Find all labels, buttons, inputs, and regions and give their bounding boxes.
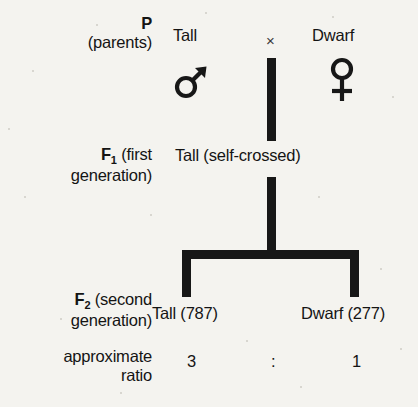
connector-trunk-upper	[267, 58, 276, 141]
ratio-separator: :	[271, 352, 275, 371]
row-label-ratio-line2: ratio	[121, 366, 152, 384]
parent-male-trait: Tall	[173, 26, 197, 45]
row-label-f2: F2 (second generation)	[0, 290, 152, 330]
row-label-f2-line2: generation)	[71, 311, 152, 329]
scan-speckle	[392, 96, 394, 98]
cross-operator: ×	[266, 33, 275, 48]
connector-bracket-left-drop	[182, 250, 191, 297]
row-label-parents: P (parents)	[0, 14, 152, 52]
row-label-f1-rest: (first	[121, 145, 152, 163]
row-label-parents-lead: P	[141, 14, 152, 32]
row-label-f1-line2: generation)	[71, 166, 152, 184]
row-label-f2-sub: 2	[84, 299, 90, 311]
row-label-f1-sub: 1	[111, 154, 117, 166]
scan-speckle	[300, 386, 302, 388]
row-label-f1-lead: F	[101, 145, 111, 163]
connector-trunk-lower	[267, 177, 276, 255]
scan-speckle	[332, 16, 334, 18]
male-symbol-icon	[173, 62, 211, 100]
row-label-f2-lead: F	[74, 290, 84, 308]
scan-speckle	[150, 214, 152, 216]
connector-bracket-right-drop	[350, 250, 359, 297]
scan-speckle	[8, 128, 10, 130]
row-label-parents-rest: (parents)	[88, 33, 152, 51]
scan-speckle	[32, 70, 34, 72]
ratio-right-value: 1	[352, 352, 361, 371]
scan-speckle	[318, 196, 320, 198]
row-label-ratio-line1: approximate	[63, 347, 152, 365]
ratio-left-value: 3	[187, 352, 196, 371]
row-label-ratio: approximate ratio	[0, 347, 152, 385]
f2-offspring-left: Tall (787)	[152, 304, 218, 323]
row-label-f1: F1 (first generation)	[0, 145, 152, 185]
parent-female-trait: Dwarf	[312, 26, 354, 45]
scan-speckle	[246, 340, 248, 342]
genetics-cross-diagram: P (parents) Tall × Dwarf F1 (first gener…	[0, 0, 418, 407]
f2-offspring-right: Dwarf (277)	[301, 304, 385, 323]
scan-speckle	[400, 348, 402, 350]
scan-speckle	[205, 12, 207, 14]
scan-speckle	[120, 392, 122, 394]
connector-bracket-horizontal	[182, 250, 359, 259]
scan-speckle	[380, 268, 382, 270]
female-symbol-icon	[325, 56, 359, 104]
row-label-f2-rest: (second	[95, 290, 152, 308]
f1-offspring: Tall (self-crossed)	[175, 146, 300, 165]
scan-speckle	[24, 196, 26, 198]
